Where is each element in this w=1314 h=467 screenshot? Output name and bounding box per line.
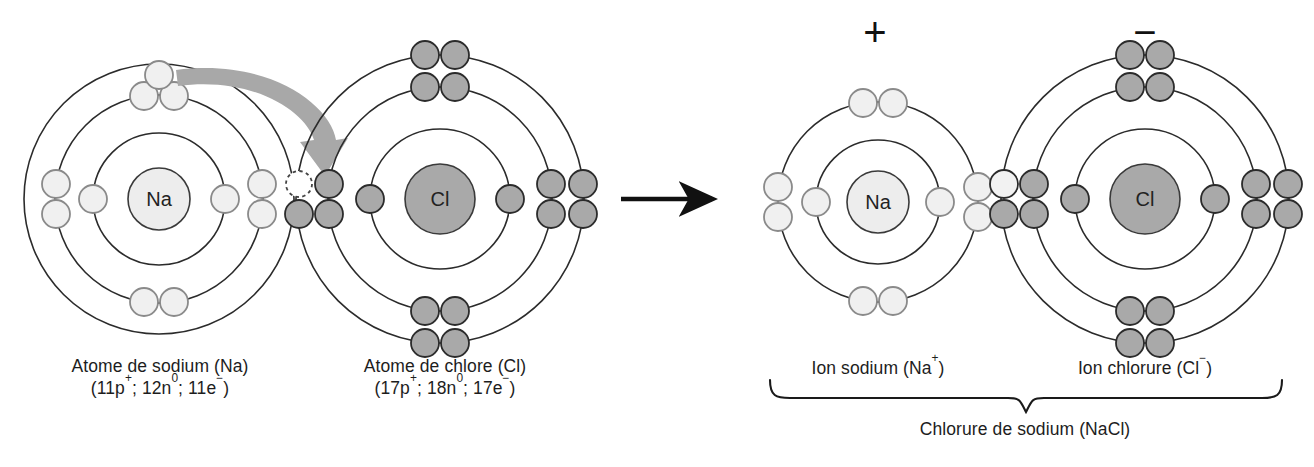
chlorine-atom-electron — [537, 200, 565, 228]
sodium-ion-electron — [764, 173, 792, 201]
sodium-ion-electron — [802, 188, 830, 216]
electron-transfer-arrow — [176, 68, 348, 176]
chloride-ion-electron — [1274, 200, 1302, 228]
chlorine-atom-electron — [315, 170, 343, 198]
sodium-atom-composition: (11p+; 12n0; 11e−) — [0, 377, 320, 399]
chloride-ion-charge-sign: − — [1123, 12, 1167, 52]
chloride-ion-electron — [1146, 329, 1174, 357]
chloride-ion-electron — [1146, 73, 1174, 101]
chloride-ion-electron — [1020, 200, 1048, 228]
sodium-atom-caption: Atome de sodium (Na) (11p+; 12n0; 11e−) — [0, 355, 320, 399]
chlorine-atom-electron — [411, 297, 439, 325]
chlorine-atom-electron — [285, 200, 313, 228]
chloride-ion-electron — [1116, 297, 1144, 325]
sodium-atom-electron — [248, 170, 276, 198]
sodium-ion-group: Na — [764, 89, 992, 315]
chlorine-atom-electron-vacancy — [286, 171, 312, 197]
chlorine-atom-electron — [441, 329, 469, 357]
chloride-ion-electron — [1201, 185, 1229, 213]
chloride-ion-electron — [1242, 170, 1270, 198]
sodium-ion-electron — [879, 89, 907, 117]
sodium-atom-electron — [211, 185, 239, 213]
chlorine-atom-electron — [441, 297, 469, 325]
sodium-atom-electron — [130, 288, 158, 316]
sodium-atom-electron — [79, 185, 107, 213]
sodium-ion-electron — [764, 203, 792, 231]
sodium-ion-electron — [879, 287, 907, 315]
sodium-ion-electron — [964, 203, 992, 231]
sodium-atom-valence-electron — [145, 61, 173, 89]
chloride-ion-caption: Ion chlorure (Cl−) — [1020, 357, 1270, 379]
chloride-ion-electron — [1061, 185, 1089, 213]
chloride-ion-electron — [1020, 170, 1048, 198]
chloride-ion-electron — [1146, 297, 1174, 325]
sodium-ion-nucleus-label: Na — [865, 191, 891, 213]
chlorine-atom-caption: Atome de chlore (Cl) (17p+; 18n0; 17e−) — [300, 355, 590, 399]
chloride-ion-electron — [1116, 73, 1144, 101]
sodium-atom-nucleus-label: Na — [146, 188, 172, 210]
sodium-atom-electron — [42, 200, 70, 228]
chloride-ion-electron — [1274, 170, 1302, 198]
chlorine-atom-electron — [356, 185, 384, 213]
sodium-ion-electron — [964, 173, 992, 201]
compound-brace — [770, 380, 1282, 412]
chloride-ion-electron — [1242, 200, 1270, 228]
chlorine-atom-electron — [411, 41, 439, 69]
chlorine-atom-electron — [496, 185, 524, 213]
chlorine-atom-group: Cl — [285, 41, 597, 357]
sodium-atom-group: Na — [24, 61, 294, 334]
chlorine-atom-electron — [569, 170, 597, 198]
sodium-ion-charge-sign: + — [853, 12, 897, 52]
chlorine-atom-electron — [441, 73, 469, 101]
chloride-ion-nucleus-label: Cl — [1136, 188, 1155, 210]
chloride-ion-electron — [1116, 329, 1144, 357]
compound-caption: Chlorure de sodium (NaCl) — [815, 418, 1235, 440]
chlorine-atom-nucleus-label: Cl — [431, 188, 450, 210]
chlorine-atom-electron — [569, 200, 597, 228]
chlorine-atom-electron — [411, 329, 439, 357]
figure-canvas: Na — [0, 0, 1314, 467]
chlorine-atom-electron — [537, 170, 565, 198]
chloride-ion-group: Cl — [990, 41, 1302, 357]
sodium-atom-electron — [42, 170, 70, 198]
sodium-atom-electron — [160, 288, 188, 316]
chlorine-atom-electron — [411, 73, 439, 101]
chlorine-atom-electron — [315, 200, 343, 228]
chlorine-atom-electron — [441, 41, 469, 69]
chlorine-atom-caption-name: Atome de chlore (Cl) — [364, 356, 526, 376]
sodium-atom-electron — [248, 200, 276, 228]
sodium-ion-electron — [926, 188, 954, 216]
sodium-ion-electron — [849, 287, 877, 315]
sodium-ion-electron — [849, 89, 877, 117]
chloride-ion-transferred-electron — [990, 170, 1018, 198]
chlorine-atom-composition: (17p+; 18n0; 17e−) — [300, 377, 590, 399]
sodium-ion-caption: Ion sodium (Na+) — [760, 357, 996, 379]
chloride-ion-electron — [990, 200, 1018, 228]
